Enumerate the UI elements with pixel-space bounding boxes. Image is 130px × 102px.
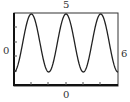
graph-window bbox=[0, 0, 130, 102]
bottom-label: 0 bbox=[63, 90, 69, 100]
top-label: 5 bbox=[63, 0, 69, 10]
right-label: 6 bbox=[121, 49, 127, 59]
plot-frame bbox=[14, 13, 118, 86]
left-label: 0 bbox=[3, 46, 9, 56]
